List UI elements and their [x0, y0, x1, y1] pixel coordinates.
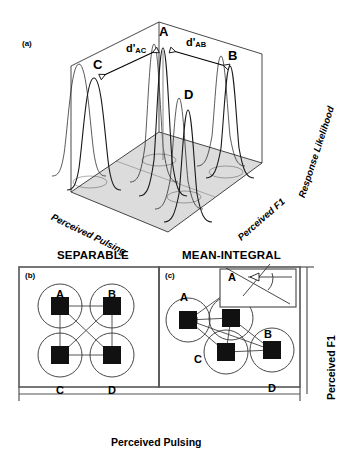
- dprime-ac-label: d'AC: [126, 43, 146, 54]
- panel-b-node-label-b: B: [108, 289, 116, 300]
- panel-c-label: (c): [165, 272, 175, 280]
- panel-b-node-label-a: A: [56, 289, 64, 300]
- panel-a-canvas: [0, 0, 343, 250]
- panel-c-square-d: [263, 341, 281, 359]
- panel-c-node-label-b: B: [264, 329, 272, 340]
- panel-b-graph: [38, 284, 134, 377]
- panel-c-square-a: [179, 311, 197, 329]
- panel-b-square-d: [103, 346, 121, 364]
- panel-a-label: (a): [22, 40, 32, 48]
- panel-b-border: [19, 267, 159, 387]
- panels-bc-canvas: [0, 250, 343, 465]
- dprime-ab-prefix: d': [186, 36, 195, 48]
- panel-b-label: (b): [25, 272, 35, 280]
- bc-axis-label-perceived-pulsing: Perceived Pulsing: [111, 437, 201, 448]
- panel-b-node-label-c: C: [56, 385, 64, 396]
- figure-root: (a) A B C D d'AC d'AB Response Likelihoo…: [0, 0, 343, 465]
- dprime-ab-label: d'AB: [186, 37, 206, 48]
- panel-c-square-c: [217, 343, 235, 361]
- peak-label-b: B: [228, 49, 237, 62]
- dprime-ac-subscript: AC: [135, 46, 146, 55]
- panel-c-square-b: [222, 309, 240, 327]
- peak-skirt-c: [52, 64, 106, 176]
- dprime-ab-subscript: AB: [195, 40, 206, 49]
- dprime-ab-arrow: [170, 50, 229, 67]
- panel-b-node-label-d: D: [108, 385, 116, 396]
- bc-axis-label-perceived-f1: Perceived F1: [326, 335, 337, 400]
- peak-label-c: C: [93, 58, 102, 71]
- peak-label-a: A: [159, 25, 168, 38]
- peak-label-d: D: [184, 88, 193, 101]
- base-plane: [71, 132, 262, 232]
- panel-c-node-label-a: A: [180, 292, 188, 303]
- panel-c-node-label-c: C: [194, 354, 202, 365]
- panel-c-node-label-d: D: [268, 383, 276, 394]
- panel-b-square-c: [51, 346, 69, 364]
- panel-c-inset-label: A: [228, 272, 236, 283]
- dprime-ac-prefix: d': [126, 42, 135, 54]
